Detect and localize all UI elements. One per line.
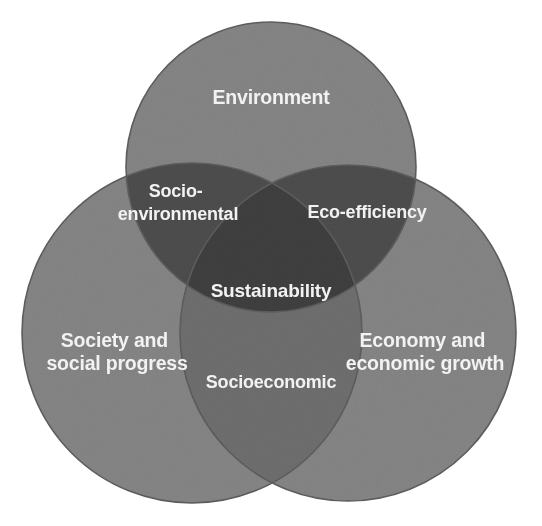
label-environment: Environment: [213, 86, 331, 108]
label-economy-line1: Economy and: [360, 329, 486, 351]
label-economy: Economy and economic growth: [346, 329, 504, 374]
label-socio-environmental-line2: environmental: [118, 204, 238, 224]
label-economy-line2: economic growth: [346, 352, 504, 374]
venn-diagram: Environment Society and social progress …: [0, 0, 542, 526]
label-society-line2: social progress: [46, 352, 188, 374]
label-society-line1: Society and: [61, 329, 168, 351]
label-socio-environmental-line1: Socio-: [149, 181, 203, 201]
label-eco-efficiency: Eco-efficiency: [307, 202, 426, 222]
venn-canvas: Environment Society and social progress …: [0, 0, 542, 526]
label-socioeconomic: Socioeconomic: [206, 372, 337, 392]
label-sustainability: Sustainability: [211, 280, 332, 301]
label-society: Society and social progress: [46, 329, 188, 374]
